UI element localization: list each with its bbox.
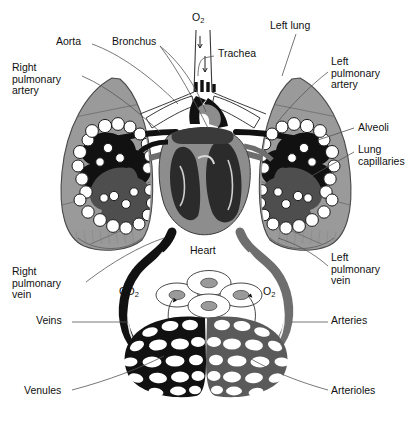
label-venules: Venules <box>24 385 61 397</box>
label-left-pulmonary-vein: Left pulmonary vein <box>331 252 380 287</box>
label-bronchus: Bronchus <box>112 36 156 48</box>
label-co2: CO2 <box>119 286 139 301</box>
label-arteries: Arteries <box>331 315 367 327</box>
alveolar-cluster-left <box>254 118 340 235</box>
label-aorta: Aorta <box>56 36 81 48</box>
alveolar-cluster-right <box>72 118 158 235</box>
diagram-canvas: Aorta Bronchus O2 Trachea Left lung Righ… <box>0 0 418 428</box>
label-lung-capillaries: Lung capillaries <box>358 144 405 167</box>
label-o2-tissue: O2 <box>263 286 275 301</box>
bronchus-right <box>146 96 194 128</box>
label-trachea: Trachea <box>218 48 256 60</box>
label-heart: Heart <box>190 245 216 257</box>
label-alveoli: Alveoli <box>358 122 389 134</box>
systemic-capillary-bed-venous <box>122 317 206 398</box>
label-left-lung: Left lung <box>270 20 310 32</box>
label-right-pulmonary-vein: Right pulmonary vein <box>12 266 61 301</box>
label-left-pulmonary-artery: Left pulmonary artery <box>331 56 380 91</box>
label-right-pulmonary-artery: Right pulmonary artery <box>12 62 61 97</box>
label-veins: Veins <box>36 315 62 327</box>
label-o2-inhaled: O2 <box>192 12 204 27</box>
label-arterioles: Arterioles <box>331 385 375 397</box>
